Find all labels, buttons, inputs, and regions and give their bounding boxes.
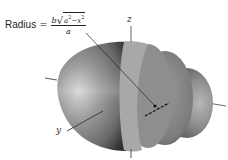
formula-equals: = (39, 19, 47, 30)
x-axis-left-tick (45, 78, 57, 80)
y-axis-label: y (56, 125, 61, 135)
exponent-x: 2 (81, 14, 84, 20)
formula-denominator: a (66, 26, 71, 36)
radicand: a2−x2 (63, 12, 85, 25)
ellipsoid-diagram: Radius = b √ a2−x2 a z y (0, 0, 228, 160)
formula-numerator: b √ a2−x2 (51, 12, 87, 25)
formula-lhs: Radius (5, 19, 36, 30)
z-axis-label: z (127, 14, 132, 24)
radius-point (153, 104, 156, 107)
radius-formula: Radius = b √ a2−x2 a (5, 12, 86, 36)
formula-fraction: b √ a2−x2 a (51, 12, 87, 36)
sqrt-expression: √ a2−x2 (57, 12, 86, 25)
